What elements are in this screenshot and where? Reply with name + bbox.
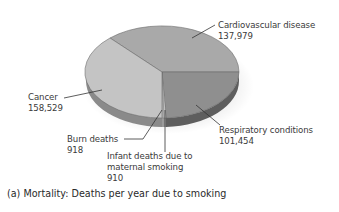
label-infant-value: 910 xyxy=(107,173,192,184)
label-cancer-value: 158,529 xyxy=(28,103,63,114)
label-burn-name: Burn deaths xyxy=(67,134,118,145)
label-cardiovascular-name: Cardiovascular disease xyxy=(218,20,315,31)
label-cardiovascular-value: 137,979 xyxy=(218,31,315,42)
pie-top xyxy=(85,26,239,118)
chart-caption: (a) Mortality: Deaths per year due to sm… xyxy=(7,188,226,199)
label-respiratory-name: Respiratory conditions xyxy=(219,125,313,136)
label-respiratory-value: 101,454 xyxy=(219,136,313,147)
label-infant-line2: maternal smoking xyxy=(107,162,192,173)
label-cancer-name: Cancer xyxy=(28,92,63,103)
label-respiratory: Respiratory conditions 101,454 xyxy=(219,125,313,147)
label-infant-deaths: Infant deaths due to maternal smoking 91… xyxy=(107,151,192,184)
label-cancer: Cancer 158,529 xyxy=(28,92,63,114)
label-cardiovascular: Cardiovascular disease 137,979 xyxy=(218,20,315,42)
label-infant-line1: Infant deaths due to xyxy=(107,151,192,162)
